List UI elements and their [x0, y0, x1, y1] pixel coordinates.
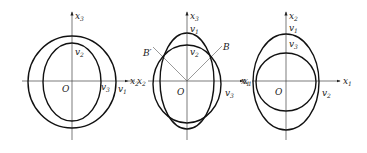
- curve-label-v1: v1: [118, 84, 127, 95]
- panel-3: x2 x1 x1 O v1 v3 v2: [241, 11, 352, 140]
- curve-label-v2: v2: [322, 88, 331, 99]
- curve-label-v1: v1: [190, 24, 199, 35]
- panel-2: x3 x1 x2 O v1 v2 v3 B B′: [128, 11, 252, 140]
- axis-label-x2: x2: [289, 11, 298, 22]
- curve-label-v3: v3: [225, 88, 234, 99]
- axis-label-x2: x2: [137, 76, 146, 87]
- curve-label-v3: v3: [101, 82, 110, 93]
- origin-label: O: [62, 84, 70, 94]
- origin-label: O: [177, 87, 185, 97]
- origin-label: O: [275, 87, 283, 97]
- panel-1: x3 x2 O v2 v3 v1: [22, 11, 139, 140]
- curve-label-v2: v2: [75, 47, 84, 58]
- point-label-bprime: B′: [142, 48, 152, 58]
- axis-label-x1: x1: [343, 76, 352, 87]
- curve-label-v3: v3: [289, 39, 298, 50]
- wave-surface-diagram: x3 x2 O v2 v3 v1 x3 x1 x2 O v1 v2 v3 B B…: [0, 0, 367, 153]
- curve-label-v1: v1: [289, 23, 298, 34]
- curve-label-v2: v2: [190, 47, 199, 58]
- axis-label-x3: x3: [190, 11, 199, 22]
- axis-label-x3: x3: [75, 11, 84, 22]
- point-label-b: B: [222, 42, 230, 52]
- axis-label-left-x1: x1: [241, 76, 250, 87]
